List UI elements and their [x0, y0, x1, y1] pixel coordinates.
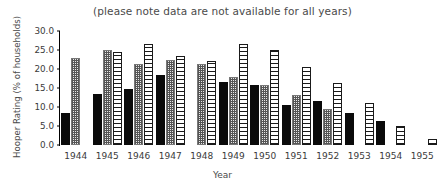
bar	[396, 126, 405, 145]
bar	[144, 44, 153, 145]
x-tick-label: 1950	[253, 151, 276, 161]
bar	[113, 52, 122, 145]
bar-group	[186, 31, 218, 145]
plot-area: 0.05.010.015.020.025.030.019441945194619…	[60, 31, 438, 145]
bar	[124, 89, 133, 145]
x-tick-label: 1945	[96, 151, 119, 161]
x-axis-title: Year	[0, 170, 445, 180]
bar	[156, 75, 165, 145]
bar	[323, 109, 332, 145]
bar	[313, 101, 322, 145]
bar-group	[344, 31, 376, 145]
bar	[365, 103, 374, 145]
x-tick-label: 1955	[411, 151, 434, 161]
bar	[270, 50, 279, 145]
bar-group	[249, 31, 281, 145]
bar-group	[123, 31, 155, 145]
y-tick-label: 30.0	[34, 26, 54, 36]
bar	[292, 95, 301, 145]
bar-group	[92, 31, 124, 145]
x-tick-label: 1947	[159, 151, 182, 161]
bar	[134, 64, 143, 145]
bar-group	[281, 31, 313, 145]
bar	[61, 113, 70, 145]
x-tick-label: 1954	[379, 151, 402, 161]
bar	[376, 121, 385, 145]
x-tick-label: 1946	[127, 151, 150, 161]
bar-group	[407, 31, 439, 145]
bar	[229, 77, 238, 145]
bar	[250, 85, 259, 145]
bar-group	[60, 31, 92, 145]
bar	[345, 113, 354, 145]
bar	[239, 44, 248, 145]
y-axis-title-text: Hooper Rating (% of households)	[12, 16, 22, 158]
bar	[219, 82, 228, 145]
bar	[333, 83, 342, 145]
bar	[428, 139, 437, 145]
y-tick-label: 10.0	[34, 102, 54, 112]
bar	[176, 56, 185, 145]
bar	[71, 58, 80, 145]
x-tick-label: 1949	[222, 151, 245, 161]
y-axis-title: Hooper Rating (% of households)	[10, 28, 24, 146]
chart-title: (please note data are not available for …	[0, 5, 445, 17]
y-tick-label: 5.0	[40, 121, 54, 131]
bar	[282, 105, 291, 145]
x-tick-label: 1953	[348, 151, 371, 161]
x-tick-label: 1944	[64, 151, 87, 161]
bar	[260, 85, 269, 145]
x-tick-label: 1948	[190, 151, 213, 161]
bar	[93, 94, 102, 145]
y-tick-label: 25.0	[34, 45, 54, 55]
y-tick-label: 20.0	[34, 64, 54, 74]
bar-group	[218, 31, 250, 145]
x-tick-label: 1951	[285, 151, 308, 161]
bar	[207, 61, 216, 145]
bar	[302, 67, 311, 145]
bar-group	[312, 31, 344, 145]
bar	[166, 60, 175, 146]
y-tick-label: 15.0	[34, 83, 54, 93]
bar	[197, 64, 206, 145]
bar	[103, 50, 112, 145]
chart-root: (please note data are not available for …	[0, 0, 445, 193]
bar-group	[155, 31, 187, 145]
y-tick-label: 0.0	[40, 140, 54, 150]
x-tick-label: 1952	[316, 151, 339, 161]
bar-group	[375, 31, 407, 145]
